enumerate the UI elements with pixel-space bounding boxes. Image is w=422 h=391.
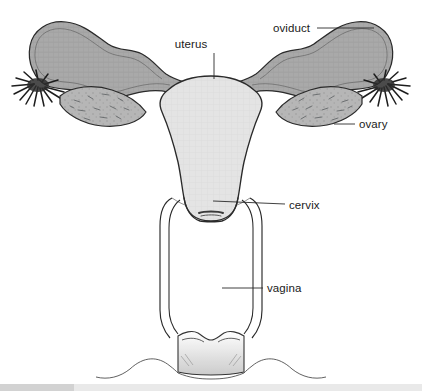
label-oviduct: oviduct [273,22,311,34]
label-vagina: vagina [267,282,302,294]
label-cervix: cervix [289,199,320,211]
label-uterus: uterus [175,38,208,50]
label-ovary: ovary [359,118,388,130]
reproductive-system-illustration: uterus oviduct ovary cervix vagina [0,0,422,391]
diagram-canvas: uterus oviduct ovary cervix vagina [0,0,422,391]
footer-bar-accent [0,384,74,391]
